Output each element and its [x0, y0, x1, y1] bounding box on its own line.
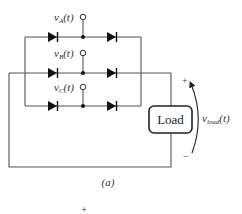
stray-plus-mark: +: [81, 204, 87, 214]
row-c: [25, 84, 141, 111]
diode-c-upper: [107, 101, 117, 111]
diode-a-upper: [107, 32, 117, 42]
label-vb: vB(t): [54, 47, 74, 61]
node-b: [81, 71, 85, 75]
diode-b-lower: [48, 68, 58, 78]
node-a: [81, 35, 85, 39]
terminal-b: [80, 50, 86, 56]
diode-b-upper: [107, 68, 117, 78]
plus-sign: +: [182, 75, 188, 86]
figure-caption: (a): [102, 176, 115, 189]
load-label: Load: [157, 112, 184, 127]
label-vload: vload(t): [202, 112, 230, 126]
return-wire: [9, 73, 171, 167]
row-a: [25, 14, 141, 42]
label-vc: vC(t): [54, 81, 74, 95]
minus-sign: −: [183, 151, 189, 162]
label-va: vA(t): [54, 11, 74, 25]
node-c: [81, 104, 85, 108]
terminal-a: [80, 14, 86, 20]
diode-a-lower: [48, 32, 58, 42]
rectifier-diagram: Load + − vA(t) vB(t) vC(t) vload(t) (a) …: [0, 0, 242, 214]
row-b: [9, 50, 171, 78]
terminal-c: [80, 84, 86, 90]
diode-c-lower: [48, 101, 58, 111]
